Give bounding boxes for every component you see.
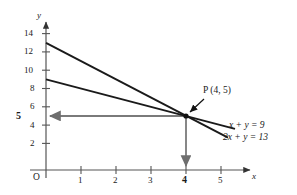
x-tick-label-3: 3 (148, 176, 153, 185)
x-tick-label-5: 5 (218, 176, 223, 185)
graph-canvas (0, 0, 297, 195)
y-tick-label-6: 6 (30, 102, 35, 111)
y-tick-label-14: 14 (24, 29, 33, 38)
highlight-x-label-4: 4 (182, 175, 187, 185)
y-axis-label: y (37, 11, 41, 20)
y-tick-label-4: 4 (30, 121, 35, 130)
x-tick-label-2: 2 (113, 176, 118, 185)
point-label-leader-line (190, 99, 204, 112)
intersection-point-P (183, 113, 188, 118)
x-axis-label: x (252, 172, 256, 181)
y-tick-label-10: 10 (24, 66, 33, 75)
y-tick-label-2: 2 (30, 139, 35, 148)
highlight-y-label-5: 5 (16, 111, 21, 121)
equation-label-line-2: 2x + y = 13 (223, 133, 268, 143)
intersection-marker-group (183, 99, 204, 119)
axes-group (30, 22, 250, 178)
point-label-P: P (4, 5) (203, 86, 231, 96)
equation-label-line-1: x + y = 9 (229, 121, 265, 131)
origin-label: O (33, 173, 40, 183)
y-tick-label-8: 8 (30, 84, 35, 93)
y-tick-label-12: 12 (24, 47, 33, 56)
coordinate-graph-figure: y x O 14 12 10 8 6 4 2 5 1 2 3 4 5 P (4,… (0, 0, 297, 195)
x-tick-label-1: 1 (78, 176, 83, 185)
guide-lines-group (50, 116, 186, 166)
line-2x-plus-y-equals-13 (46, 43, 228, 138)
